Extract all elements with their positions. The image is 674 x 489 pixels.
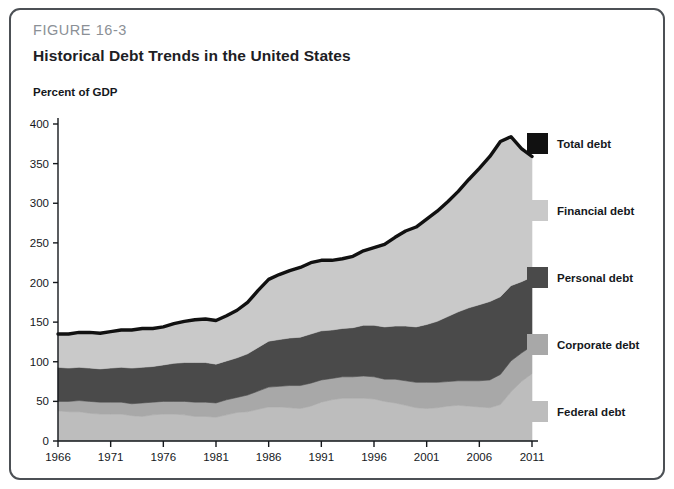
y-tick-label: 50 bbox=[36, 395, 49, 407]
x-tick-label: 1996 bbox=[361, 451, 387, 463]
legend-item-corporate-debt[interactable]: Corporate debt bbox=[527, 334, 639, 355]
legend-swatch-icon bbox=[527, 334, 548, 355]
figure-card: FIGURE 16-3 Historical Debt Trends in th… bbox=[0, 0, 674, 489]
x-tick-label: 1971 bbox=[98, 451, 124, 463]
legend-label: Financial debt bbox=[557, 205, 634, 217]
y-axis-unit-label: Percent of GDP bbox=[33, 86, 117, 98]
legend-label: Personal debt bbox=[557, 272, 633, 284]
legend-swatch-icon bbox=[527, 200, 548, 221]
legend-item-personal-debt[interactable]: Personal debt bbox=[527, 267, 633, 288]
legend-item-financial-debt[interactable]: Financial debt bbox=[527, 200, 634, 221]
x-tick-label: 1981 bbox=[203, 451, 229, 463]
y-tick-label: 150 bbox=[30, 316, 49, 328]
y-tick-label: 250 bbox=[30, 237, 49, 249]
y-tick-label: 0 bbox=[43, 435, 49, 447]
chart-y-tick-labels: 050100150200250300350400 bbox=[30, 118, 58, 447]
legend-swatch-icon bbox=[527, 133, 548, 154]
legend-label: Federal debt bbox=[557, 406, 625, 418]
chart-x-tick-labels: 1966197119761981198619911996200120062011 bbox=[45, 441, 544, 463]
y-tick-label: 350 bbox=[30, 158, 49, 170]
legend-swatch-icon bbox=[527, 401, 548, 422]
y-tick-label: 200 bbox=[30, 277, 49, 289]
legend-item-total-debt[interactable]: Total debt bbox=[527, 133, 611, 154]
x-tick-label: 1991 bbox=[309, 451, 335, 463]
x-tick-label: 1986 bbox=[256, 451, 282, 463]
chart-legend: Total debtFinancial debtPersonal debtCor… bbox=[527, 133, 667, 423]
x-tick-label: 2011 bbox=[520, 451, 545, 463]
x-tick-label: 1966 bbox=[45, 451, 71, 463]
x-tick-label: 1976 bbox=[151, 451, 177, 463]
legend-item-federal-debt[interactable]: Federal debt bbox=[527, 401, 625, 422]
y-tick-label: 300 bbox=[30, 197, 49, 209]
legend-label: Total debt bbox=[557, 138, 611, 150]
y-tick-label: 400 bbox=[30, 118, 49, 130]
figure-number-label: FIGURE 16-3 bbox=[33, 22, 127, 38]
chart-area-series-group bbox=[58, 137, 532, 441]
y-tick-label: 100 bbox=[30, 356, 49, 368]
legend-swatch-icon bbox=[527, 267, 548, 288]
x-tick-label: 2001 bbox=[414, 451, 440, 463]
legend-label: Corporate debt bbox=[557, 339, 639, 351]
figure-title: Historical Debt Trends in the United Sta… bbox=[33, 47, 351, 65]
x-tick-label: 2006 bbox=[467, 451, 493, 463]
